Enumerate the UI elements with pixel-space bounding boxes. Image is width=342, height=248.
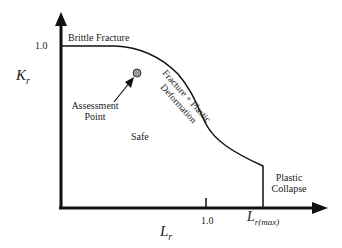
plastic-collapse-label: Plastic Collapse	[266, 172, 312, 194]
failure-assessment-curve	[61, 46, 263, 208]
assessment-point	[133, 69, 141, 77]
brittle-fracture-label: Brittle Fracture	[68, 32, 129, 43]
x-axis-label: Lr	[160, 226, 172, 242]
assessment-arrow	[114, 82, 130, 102]
x-tick-label: 1.0	[201, 215, 214, 226]
diagram-canvas	[0, 0, 342, 248]
x-axis-arrow-icon	[312, 202, 328, 214]
safe-region-label: Safe	[131, 131, 149, 142]
y-tick-label: 1.0	[35, 40, 48, 51]
y-axis-label: Kr	[16, 70, 30, 86]
y-axis-arrow-icon	[55, 12, 67, 26]
assessment-point-label: Assessment Point	[66, 100, 124, 122]
x-max-label: Lr(max)	[247, 211, 279, 228]
